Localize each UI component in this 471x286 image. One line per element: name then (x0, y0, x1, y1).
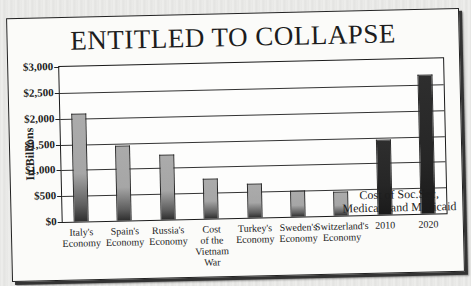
bar (203, 179, 219, 219)
bar (115, 145, 132, 221)
y-tick-label: $1,000 (13, 163, 55, 176)
y-tick-mark (58, 222, 63, 223)
y-tick-label: $500 (14, 189, 56, 202)
group-annotation-line: Medicare and Medicaid (329, 200, 469, 216)
y-tick-label: $1,500 (13, 138, 55, 151)
y-tick-label: $3,000 (11, 60, 53, 73)
chart-card: ENTITLED TO COLLAPSE In Billions $3,000$… (6, 8, 465, 282)
y-tick-mark (55, 119, 60, 120)
bar (71, 113, 88, 222)
gridline (60, 110, 444, 120)
y-tick-label: $0 (15, 215, 57, 228)
y-tick-mark (57, 170, 62, 171)
y-tick-mark (54, 67, 59, 68)
bar (246, 184, 262, 218)
y-tick-mark (56, 144, 61, 145)
x-category-label: 2020 (393, 218, 463, 231)
y-tick-mark (55, 93, 60, 94)
y-tick-label: $2,000 (12, 112, 54, 125)
x-category-label-line: Economy (307, 231, 377, 244)
gridline (60, 84, 444, 94)
bar (290, 191, 306, 217)
group-annotation: Cost of Soc.Sec, Medicare and Medicaid (329, 187, 470, 216)
chart-title: ENTITLED TO COLLAPSE (7, 17, 459, 58)
y-tick-label: $2,500 (12, 86, 54, 99)
x-category-label-line: War (177, 256, 247, 269)
bar (159, 154, 175, 219)
y-tick-mark (57, 196, 62, 197)
x-category-label-line: 2020 (393, 218, 463, 231)
